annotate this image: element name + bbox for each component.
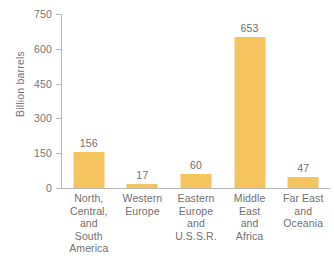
x-axis-category-label-line: Oceania [276, 217, 330, 230]
y-axis-tick-label: 300 [34, 112, 52, 124]
y-axis-tick-label: 0 [46, 182, 52, 194]
bar-slot: 156 [62, 14, 116, 188]
x-axis-category-label-line: Eastern [169, 192, 223, 205]
y-axis-tick-label: 750 [34, 8, 52, 20]
bar-chart: Billion barrels 0150300450600750 1561760… [0, 0, 334, 266]
x-axis-category-label-line: East [223, 205, 277, 218]
bar-value-label: 47 [297, 162, 309, 174]
x-axis-category-label-line: and [169, 217, 223, 230]
x-axis-category-label: North,Central,andSouthAmerica [62, 192, 116, 255]
x-axis-category-label-line: U.S.S.R. [169, 230, 223, 243]
x-axis-category-label: EasternEuropeandU.S.S.R. [169, 192, 223, 242]
x-axis-category-label-line: Middle [223, 192, 277, 205]
y-axis-tick-mark [56, 188, 62, 189]
x-axis-category-label-line: and [62, 217, 116, 230]
x-axis-category-label-line: South [62, 230, 116, 243]
bar-value-label: 17 [136, 169, 148, 181]
bar[interactable] [180, 174, 211, 188]
x-axis-category-label-line: Central, [62, 205, 116, 218]
bar-slot: 653 [223, 14, 277, 188]
bar[interactable] [234, 37, 265, 188]
y-axis-tick-label: 600 [34, 43, 52, 55]
bar[interactable] [127, 184, 158, 188]
bar-slot: 47 [276, 14, 330, 188]
bar-series: 156176065347 [62, 14, 330, 188]
x-axis-category-label-line: Far East [276, 192, 330, 205]
x-axis-category-label: WesternEurope [116, 192, 170, 217]
y-axis-tick-label: 150 [34, 147, 52, 159]
y-axis-title: Billion barrels [14, 34, 26, 134]
x-axis-category-label-line: Africa [223, 230, 277, 243]
x-axis-line [61, 188, 330, 189]
bar-value-label: 60 [190, 159, 202, 171]
bar-slot: 60 [169, 14, 223, 188]
x-axis-category-label-line: America [62, 242, 116, 255]
bar[interactable] [288, 177, 319, 188]
x-axis-category-label-line: and [223, 217, 277, 230]
x-axis-category-label-line: Western [116, 192, 170, 205]
y-axis-tick-label: 450 [34, 78, 52, 90]
x-axis-category-label-line: North, [62, 192, 116, 205]
x-axis-category-label: MiddleEastandAfrica [223, 192, 277, 242]
x-axis-category-label-line: Europe [116, 205, 170, 218]
bar-value-label: 156 [80, 137, 98, 149]
bar-slot: 17 [116, 14, 170, 188]
x-axis-category-label: Far EastandOceania [276, 192, 330, 230]
plot-area: 0150300450600750 156176065347 [61, 14, 330, 188]
bar-value-label: 653 [241, 22, 259, 34]
x-axis-category-label-line: Europe [169, 205, 223, 218]
x-axis-category-label-line: and [276, 205, 330, 218]
bar[interactable] [73, 152, 104, 188]
